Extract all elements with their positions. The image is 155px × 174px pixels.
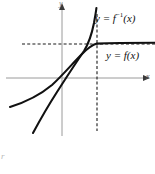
inverse-label-suffix: (x) [123, 12, 135, 24]
x-axis [6, 75, 150, 81]
graph-canvas [0, 0, 155, 174]
corner-artifact-mark: r [1, 152, 5, 161]
inverse-function-label: y = f−1(x) [95, 12, 136, 24]
function-label: y = f(x) [106, 50, 139, 61]
y-axis [59, 3, 65, 136]
y-axis-label: y [59, 0, 63, 8]
inverse-label-prefix: y = f [95, 12, 116, 24]
function-inverse-graph-figure: y x y = f−1(x) y = f(x) r [0, 0, 155, 174]
x-axis-label: x [146, 73, 150, 81]
curve-f-inverse-of-x [33, 8, 96, 133]
